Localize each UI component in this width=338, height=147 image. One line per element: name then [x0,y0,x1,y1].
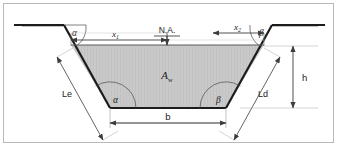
dimension-extension-Ld-bottom [219,131,234,140]
slope-length-label-right: Ld [258,89,268,99]
angle-label-bottom-right: β [215,95,221,105]
dimension-label-x2-subscript: 2 [238,27,241,33]
dimension-extension-Ld-top [264,48,280,57]
base-width-label: b [165,111,170,122]
dimension-extension-Le-bottom [103,131,118,140]
trapezoidal-channel-diagram: α β α β x1 x2 [0,0,338,147]
dimension-label-x1: x1 [111,29,119,40]
height-label: h [302,72,307,83]
slope-length-label-left: Le [62,89,72,99]
dimension-label-x2: x2 [233,22,241,33]
dimension-extension-Le-top [57,48,73,57]
web-area-label-subscript: w [168,76,173,83]
neutral-axis-label: N.A. [159,25,176,35]
figure-root: α β α β x1 x2 [0,0,338,147]
dimension-label-x1-subscript: 1 [116,34,119,40]
